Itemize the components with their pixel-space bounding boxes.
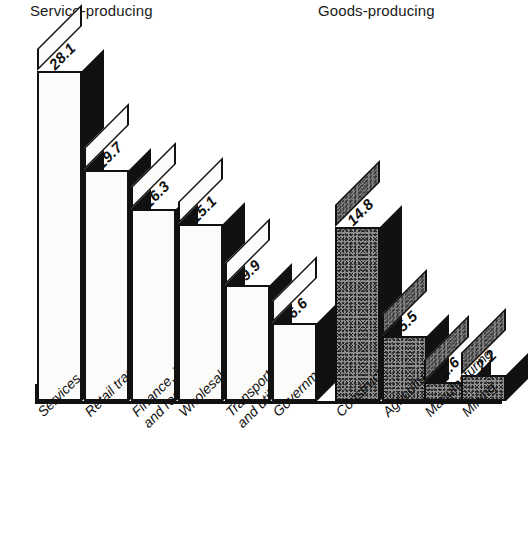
bar-front-face [37, 71, 82, 401]
bar-government: 6.6 [272, 0, 339, 401]
bar-side-face [506, 353, 528, 401]
bar-mining: 2.2 [461, 0, 528, 401]
